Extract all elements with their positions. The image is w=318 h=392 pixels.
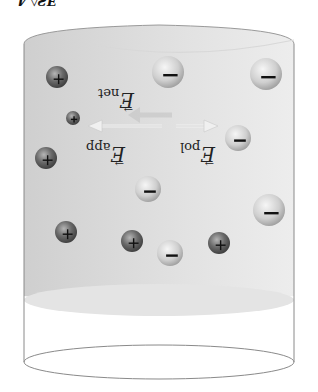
vector-arrow-icon: → xyxy=(124,103,133,116)
negative-ion xyxy=(157,240,183,266)
clipped-caption: …ƎƧ◊ 4 … xyxy=(0,0,318,8)
e-app-label: Eapp → xyxy=(86,140,125,166)
vector-arrow-icon: → xyxy=(115,157,124,170)
diagram-canvas: …ƎƧ◊ 4 … xyxy=(0,0,318,392)
e-pol-subscript: pol xyxy=(180,140,200,155)
positive-ion xyxy=(46,66,68,88)
cylinder-diagram xyxy=(0,0,318,392)
negative-ion xyxy=(225,125,251,151)
negative-ion xyxy=(152,56,184,88)
positive-ion xyxy=(208,232,230,254)
positive-ion xyxy=(121,230,143,252)
e-pol-label: Epol → xyxy=(180,140,215,166)
negative-ion xyxy=(250,58,282,90)
vector-arrow-icon: → xyxy=(205,157,214,170)
e-net-label: Enet → xyxy=(98,86,134,112)
negative-ion xyxy=(253,194,285,226)
positive-ion xyxy=(55,221,77,243)
e-app-subscript: app xyxy=(86,140,110,155)
cylinder-base-ellipse xyxy=(24,345,294,379)
positive-ion xyxy=(66,111,80,125)
negative-ion xyxy=(135,176,161,202)
e-net-subscript: net xyxy=(98,86,119,101)
medium-surface-ellipse xyxy=(24,284,294,316)
positive-ion xyxy=(35,147,57,169)
